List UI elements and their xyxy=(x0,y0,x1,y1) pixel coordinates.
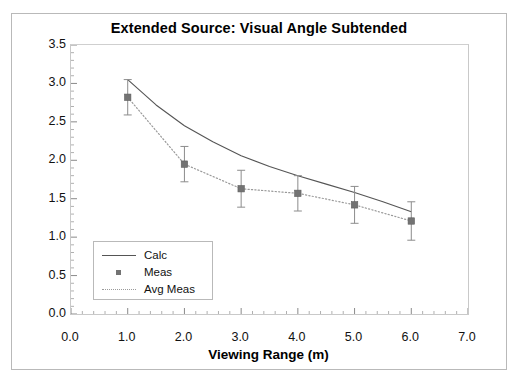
x-tick-label: 4.0 xyxy=(277,330,317,344)
x-axis-tick-labels: 0.01.02.03.04.05.06.07.0 xyxy=(70,330,467,348)
series-meas xyxy=(124,80,416,241)
page-top-text-strip xyxy=(0,0,519,12)
legend-key-dotted-line-icon xyxy=(99,283,139,295)
y-axis-tick-labels: 0.00.51.01.52.02.53.03.5 xyxy=(26,44,66,313)
x-tick-label: 1.0 xyxy=(107,330,147,344)
y-tick-label: 0.0 xyxy=(32,306,66,320)
chart-title: Extended Source: Visual Angle Subtended xyxy=(12,20,506,36)
x-tick-label: 6.0 xyxy=(390,330,430,344)
legend-key-square-icon xyxy=(99,266,139,278)
plot-area: Calc Meas Avg Meas xyxy=(70,44,469,315)
y-tick-label: 3.5 xyxy=(32,37,66,51)
x-tick-label: 3.0 xyxy=(220,330,260,344)
chart-legend: Calc Meas Avg Meas xyxy=(93,241,213,300)
legend-item-calc: Calc xyxy=(94,246,212,263)
y-tick-label: 1.5 xyxy=(32,191,66,205)
x-axis-title: Viewing Range (m) xyxy=(70,347,467,362)
legend-label-avg-meas: Avg Meas xyxy=(144,283,195,295)
chart-frame: Extended Source: Visual Angle Subtended … xyxy=(11,13,507,370)
legend-item-avg-meas: Avg Meas xyxy=(94,280,212,297)
legend-label-calc: Calc xyxy=(144,249,167,261)
chart-figure: Extended Source: Visual Angle Subtended … xyxy=(0,0,519,383)
series-calc xyxy=(128,80,412,212)
y-axis-title: Angle Subtended (mrad) xyxy=(0,0,16,38)
x-tick-label: 5.0 xyxy=(334,330,374,344)
x-tick-label: 7.0 xyxy=(447,330,487,344)
legend-item-meas: Meas xyxy=(94,263,212,280)
x-tick-label: 2.0 xyxy=(163,330,203,344)
legend-key-line-icon xyxy=(99,249,139,261)
legend-label-meas: Meas xyxy=(144,266,172,278)
y-tick-label: 3.0 xyxy=(32,75,66,89)
y-tick-label: 2.0 xyxy=(32,152,66,166)
y-tick-label: 2.5 xyxy=(32,114,66,128)
x-tick-label: 0.0 xyxy=(50,330,90,344)
y-tick-label: 1.0 xyxy=(32,229,66,243)
y-tick-label: 0.5 xyxy=(32,268,66,282)
